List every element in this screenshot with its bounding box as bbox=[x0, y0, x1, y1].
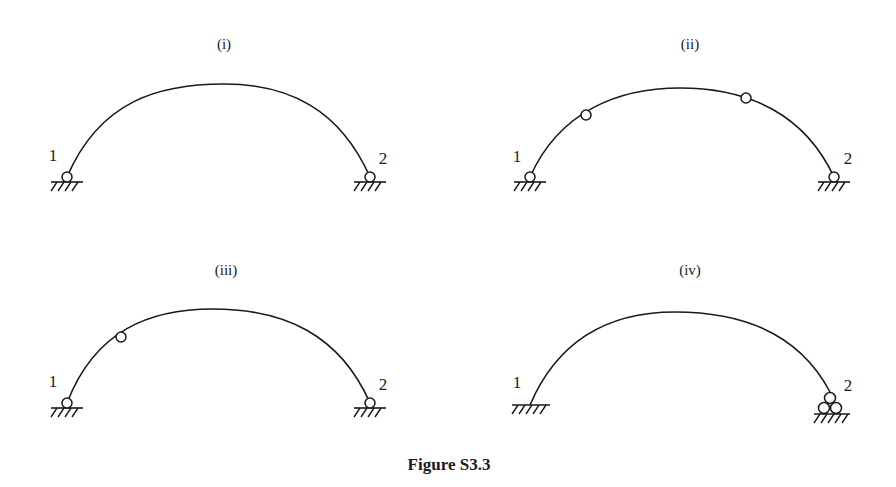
roller-support-right bbox=[814, 393, 850, 424]
node-label-1: 1 bbox=[513, 147, 522, 166]
panel-ii: (ii) 1 2 bbox=[513, 36, 853, 191]
internal-hinge-icon bbox=[116, 332, 126, 342]
arch-member bbox=[530, 88, 834, 177]
node-label-2: 2 bbox=[379, 149, 388, 168]
panel-title-i: (i) bbox=[217, 36, 231, 53]
pin-icon bbox=[62, 172, 72, 182]
arch-member bbox=[530, 312, 830, 405]
arch-member bbox=[67, 84, 370, 177]
fixed-support-left bbox=[512, 405, 550, 414]
pinned-support-left bbox=[51, 172, 83, 191]
pinned-support-left bbox=[51, 398, 83, 417]
node-label-2: 2 bbox=[844, 376, 853, 395]
pinned-support-right bbox=[354, 398, 386, 417]
node-label-1: 1 bbox=[513, 373, 522, 392]
internal-hinge-icon bbox=[741, 93, 751, 103]
roller-icon bbox=[819, 403, 830, 414]
node-label-1: 1 bbox=[49, 372, 58, 391]
panel-iii: (iii) 1 2 bbox=[49, 262, 388, 417]
figure-canvas: (i) 1 2 (ii) 1 2 (iii) bbox=[0, 0, 896, 487]
internal-hinge-icon bbox=[581, 110, 591, 120]
pin-icon bbox=[365, 398, 375, 408]
pin-icon bbox=[525, 172, 535, 182]
panel-i: (i) 1 2 bbox=[49, 36, 388, 191]
node-label-2: 2 bbox=[379, 375, 388, 394]
arch-member bbox=[67, 309, 370, 403]
panel-title-iv: (iv) bbox=[679, 262, 701, 279]
figure-caption: Figure S3.3 bbox=[408, 455, 491, 474]
panel-title-ii: (ii) bbox=[681, 36, 699, 53]
pin-icon bbox=[825, 393, 836, 404]
pin-icon bbox=[365, 172, 375, 182]
roller-icon bbox=[831, 403, 842, 414]
pin-icon bbox=[62, 398, 72, 408]
panel-title-iii: (iii) bbox=[215, 262, 238, 279]
pin-icon bbox=[829, 172, 839, 182]
panel-iv: (iv) 1 2 bbox=[512, 262, 852, 423]
node-label-1: 1 bbox=[49, 146, 58, 165]
pinned-support-right bbox=[818, 172, 850, 191]
pinned-support-left bbox=[514, 172, 546, 191]
pinned-support-right bbox=[354, 172, 386, 191]
node-label-2: 2 bbox=[844, 149, 853, 168]
